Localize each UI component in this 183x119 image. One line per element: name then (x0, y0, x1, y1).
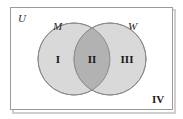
region-label-i: I (56, 53, 60, 65)
region-label-iii: III (121, 53, 134, 65)
set-label-w: W (128, 20, 138, 32)
venn-diagram-figure: U M W I II III IV (0, 0, 183, 119)
region-label-ii: II (88, 53, 97, 65)
universe-label: U (18, 12, 27, 24)
region-label-iv: IV (152, 93, 164, 105)
set-label-m: M (52, 20, 63, 32)
venn-diagram-canvas: U M W I II III IV (0, 0, 183, 119)
